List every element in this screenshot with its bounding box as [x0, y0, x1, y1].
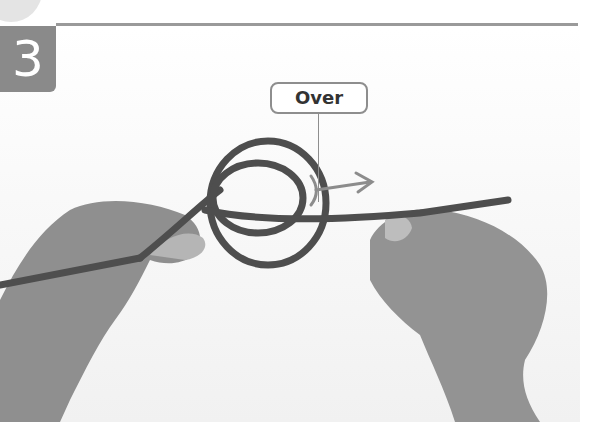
- corner-decoration: [0, 0, 42, 22]
- callout-label: Over: [270, 82, 368, 114]
- callout-leader-line: [318, 114, 319, 202]
- step-number-badge: 3: [0, 26, 56, 92]
- header-rule: [56, 23, 578, 26]
